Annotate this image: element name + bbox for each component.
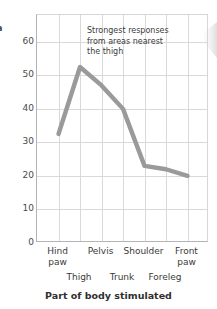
y-axis-tick-label: 50: [6, 69, 34, 79]
y-axis-tick-label: 30: [6, 136, 34, 146]
x-axis-label-front-paw: Frontpaw: [175, 246, 198, 267]
chart-figure: a 0102030405060 Strongest responses from…: [0, 0, 217, 309]
x-axis-label-line: Front: [175, 246, 198, 257]
annotation-line-3: the thigh: [87, 47, 192, 58]
x-axis-label-line: paw: [175, 257, 198, 268]
y-axis-tick-label: 10: [6, 203, 34, 213]
y-axis-caption: a: [0, 24, 9, 33]
x-axis-label-line: paw: [47, 257, 68, 268]
x-axis-label-line: Shoulder: [123, 246, 163, 257]
chart-annotation: Strongest responses from areas nearest t…: [87, 26, 192, 58]
y-axis-tick-label: 20: [6, 170, 34, 180]
x-axis-label-hind-paw: Hindpaw: [47, 246, 68, 267]
x-axis-label-line: Pelvis: [88, 246, 114, 257]
x-axis-label-thigh: Thigh: [66, 272, 91, 283]
annotation-line-2: from areas nearest: [87, 37, 192, 48]
y-axis-tick-label: 60: [6, 36, 34, 46]
x-axis-title: Part of body stimulated: [0, 290, 217, 301]
x-axis-label-foreleg: Foreleg: [148, 272, 181, 283]
x-axis-label-pelvis: Pelvis: [88, 246, 114, 257]
x-axis-label-line: Hind: [47, 246, 68, 257]
x-axis-label-trunk: Trunk: [110, 272, 135, 283]
y-axis-tick-label: 0: [6, 237, 34, 247]
x-axis-label-shoulder: Shoulder: [123, 246, 163, 257]
y-axis-tick-label: 40: [6, 103, 34, 113]
annotation-line-1: Strongest responses: [87, 26, 192, 37]
